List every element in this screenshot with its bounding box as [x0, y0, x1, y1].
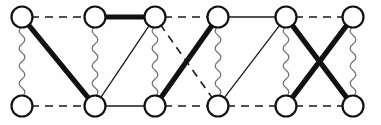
edge-t3-b3-wavy [152, 27, 158, 97]
edge-t5-b4-thin [223, 24, 280, 99]
edge-t6-b6-wavy [350, 27, 356, 97]
vertex-b5 [276, 96, 297, 117]
edge-t1-b1-wavy [19, 27, 25, 97]
edge-t4-b3-thick [160, 24, 214, 100]
edge-t2-b2-wavy [92, 27, 98, 97]
edge-t5-b5-wavy [283, 27, 289, 97]
vertex-b6 [343, 96, 364, 117]
vertex-b1 [12, 96, 33, 117]
edge-t4-b4-wavy [215, 27, 221, 97]
vertex-t5 [276, 7, 297, 28]
vertex-t3 [145, 7, 166, 28]
vertex-b4 [208, 96, 229, 117]
thin-edge-layer [100, 17, 281, 106]
vertex-t4 [208, 7, 229, 28]
vertex-t2 [85, 7, 106, 28]
thick-edge-layer [27, 17, 348, 100]
vertex-b3 [145, 96, 166, 117]
vertex-t1 [12, 7, 33, 28]
graph-figure [0, 0, 381, 125]
edge-t3-b2-thin [100, 24, 150, 98]
edge-t1-b2-thick [27, 23, 90, 100]
graph-canvas [0, 0, 381, 125]
vertex-b2 [85, 96, 106, 117]
vertex-t6 [343, 7, 364, 28]
